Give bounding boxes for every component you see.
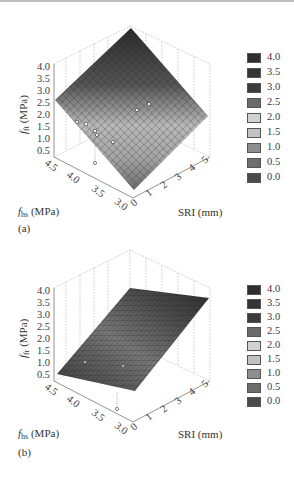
legend-item: 3.0 (247, 83, 293, 94)
svg-text:3.5: 3.5 (90, 407, 107, 424)
legend-item: 0.0 (247, 397, 293, 408)
panel-a-z-label: fft (MPa) (17, 95, 31, 134)
legend-swatch (247, 83, 261, 93)
svg-text:0.5: 0.5 (37, 369, 50, 380)
svg-text:1.0: 1.0 (37, 357, 50, 368)
panel-b-caption-label: (b) (18, 446, 31, 459)
svg-text:3.0: 3.0 (113, 196, 130, 213)
panel-b-y-label: SRI (mm) (178, 428, 223, 441)
svg-text:2.5: 2.5 (37, 97, 50, 108)
svg-text:1.0: 1.0 (37, 133, 50, 144)
panel-a-z-ticks: 4.0 3.5 3.0 2.5 2.0 1.5 1.0 0.5 (37, 61, 50, 156)
legend-item: 2.5 (247, 98, 293, 109)
svg-text:4.0: 4.0 (65, 393, 82, 410)
legend-swatch (247, 397, 261, 407)
svg-text:1.5: 1.5 (37, 345, 50, 356)
legend-swatch (247, 285, 261, 295)
svg-text:2: 2 (158, 403, 169, 415)
svg-text:3.5: 3.5 (37, 73, 50, 84)
svg-text:4.5: 4.5 (43, 381, 60, 398)
legend-swatch (247, 143, 261, 153)
legend-item: 1.5 (247, 355, 293, 366)
legend-swatch (247, 355, 261, 365)
legend-item: 1.0 (247, 143, 293, 154)
legend-swatch (247, 383, 261, 393)
legend-swatch (247, 327, 261, 337)
svg-text:4: 4 (186, 161, 198, 173)
svg-text:1.5: 1.5 (37, 121, 50, 132)
svg-text:2.0: 2.0 (37, 109, 50, 120)
svg-text:0: 0 (128, 421, 139, 433)
svg-text:3.0: 3.0 (113, 420, 130, 437)
legend-item: 3.5 (247, 299, 293, 310)
legend-item: 3.0 (247, 313, 293, 324)
legend-swatch (247, 113, 261, 123)
legend-swatch (247, 299, 261, 309)
panel-a-caption-label: (a) (18, 222, 31, 235)
legend-swatch (247, 128, 261, 138)
panel-b-z-ticks: 4.0 3.5 3.0 2.5 2.0 1.5 1.0 0.5 (37, 285, 50, 380)
legend-item: 2.5 (247, 327, 293, 338)
legend-item: 4.0 (247, 285, 293, 296)
svg-text:5: 5 (199, 154, 210, 166)
legend-swatch (247, 158, 261, 168)
legend-item: 3.5 (247, 68, 293, 79)
legend-swatch (247, 53, 261, 63)
svg-text:3.5: 3.5 (90, 183, 107, 200)
panel-b-x-label: fhs (MPa) (18, 427, 59, 441)
svg-text:2.5: 2.5 (37, 321, 50, 332)
legend-item: 4.0 (247, 53, 293, 64)
svg-text:4.5: 4.5 (43, 157, 60, 174)
legend-item: 2.0 (247, 341, 293, 352)
svg-text:3.5: 3.5 (37, 297, 50, 308)
legend-item: 1.5 (247, 128, 293, 139)
svg-text:1: 1 (143, 187, 154, 199)
legend-swatch (247, 313, 261, 323)
panel-a-y-label: SRI (mm) (178, 206, 223, 219)
svg-text:4.0: 4.0 (65, 169, 82, 186)
svg-text:5: 5 (199, 378, 210, 390)
svg-text:3.0: 3.0 (37, 309, 50, 320)
legend-swatch (247, 173, 261, 183)
legend-item: 1.0 (247, 369, 293, 380)
svg-text:3.0: 3.0 (37, 85, 50, 96)
svg-text:2.0: 2.0 (37, 333, 50, 344)
svg-text:0: 0 (128, 197, 139, 209)
legend-item: 0.5 (247, 158, 293, 169)
panel-a-x-label: fhs (MPa) (18, 205, 59, 219)
svg-text:4: 4 (186, 385, 198, 397)
legend-item: 2.0 (247, 113, 293, 124)
panel-b-z-label: ffr (MPa) (17, 318, 31, 358)
svg-text:2: 2 (158, 179, 169, 191)
legend-swatch (247, 341, 261, 351)
legend-swatch (247, 369, 261, 379)
svg-text:4.0: 4.0 (37, 285, 50, 296)
legend-item: 0.5 (247, 383, 293, 394)
panel-b-y-ticks: 0 1 2 3 4 5 (128, 378, 210, 433)
legend-swatch (247, 98, 261, 108)
legend-swatch (247, 68, 261, 78)
svg-text:0.5: 0.5 (37, 145, 50, 156)
panel-a-surface (55, 28, 208, 190)
svg-text:1: 1 (143, 411, 154, 423)
svg-text:4.0: 4.0 (37, 61, 50, 72)
legend-item: 0.0 (247, 173, 293, 184)
